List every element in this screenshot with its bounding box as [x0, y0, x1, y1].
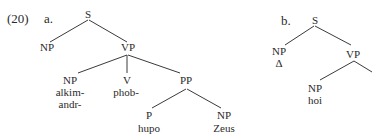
word-hupo: hupo [138, 123, 160, 134]
branch-b-s-vp [315, 26, 351, 45]
branch-b-s-np [285, 26, 314, 45]
branch-s-np [50, 20, 88, 42]
node-pp: PP [180, 75, 192, 86]
node-p: P [146, 110, 152, 121]
tree-a-label: a. [44, 12, 53, 25]
node-v: V [123, 75, 131, 86]
node-np-pp: NP [217, 110, 231, 121]
branch-b-vp-np [320, 61, 354, 80]
word-alkim: alkim- [56, 87, 85, 98]
word-phob: phob- [113, 87, 139, 98]
tree-b-label: b. [281, 14, 291, 27]
node-vp: VP [121, 42, 135, 53]
branch-vp-np [78, 55, 127, 73]
word-delta: Δ [275, 58, 282, 69]
example-number: (20) [7, 12, 29, 25]
branch-pp-p [152, 89, 186, 108]
node-np-object: NP [63, 75, 77, 86]
node-s: S [85, 9, 91, 20]
word-hoi: hoi [308, 95, 322, 106]
node-b-np-subject: NP [272, 46, 286, 57]
word-andr: andr- [59, 99, 82, 110]
branch-s-vp [89, 20, 127, 42]
branch-b-vp-right [354, 61, 372, 72]
word-zeus: Zeus [213, 123, 234, 134]
node-np-subject: NP [40, 42, 54, 53]
node-b-vp: VP [346, 49, 360, 60]
node-b-s: S [312, 15, 318, 26]
node-b-np-object: NP [308, 83, 322, 94]
branch-vp-pp [128, 55, 180, 73]
branch-pp-np [187, 89, 221, 108]
